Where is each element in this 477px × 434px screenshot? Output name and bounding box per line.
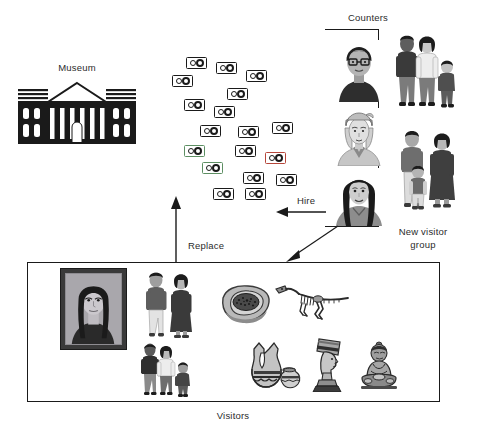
- tally-counter-icon: [246, 70, 267, 82]
- tally-counter-icon: [238, 126, 259, 138]
- tally-counter-icon: [184, 145, 205, 157]
- replace-arrow: [168, 196, 184, 264]
- pottery-vessels: [243, 341, 305, 393]
- visitor-group-pair: [137, 270, 197, 342]
- tally-counter-icon: [216, 62, 237, 74]
- tally-counter-icon: [272, 122, 293, 134]
- tally-counter-icon: [265, 152, 286, 164]
- tally-counter-icon: [243, 172, 264, 184]
- replace-label: Replace: [188, 240, 224, 251]
- buddha-statue: [353, 340, 405, 392]
- tally-counter-icon: [172, 75, 193, 87]
- visitors-label: Visitors: [196, 410, 270, 421]
- tally-counter-icon: [245, 188, 266, 200]
- new-visitor-group-label-line1: New visitor: [381, 226, 465, 237]
- new-visitor-group-label-line2: group: [381, 239, 465, 250]
- new-visitor-group-family-2: [390, 128, 464, 216]
- tally-counter-icon: [202, 162, 223, 174]
- nefertiti-bust: [307, 336, 351, 392]
- diagram-canvas: Museum: [0, 0, 477, 434]
- dinosaur-skeleton: [272, 278, 352, 328]
- painting-canvas: [65, 273, 122, 345]
- tally-counter-icon: [235, 145, 256, 157]
- tally-counter-icon: [200, 125, 221, 137]
- mona-lisa-painting: [60, 268, 127, 350]
- museum-building-icon: [18, 80, 136, 145]
- museum-label: Museum: [37, 62, 117, 73]
- tally-counter-icon: [186, 57, 207, 69]
- counter-portrait-woman-dark-hair: [334, 168, 384, 226]
- hire-label: Hire: [297, 195, 315, 206]
- tally-counter-icon: [213, 188, 234, 200]
- tally-counter-icon: [214, 106, 235, 118]
- new-visitor-group-family-1: [390, 33, 464, 115]
- fossil-specimen: [218, 282, 274, 326]
- new-visitor-arrow: [283, 224, 341, 264]
- counters-label: Counters: [332, 12, 404, 23]
- visitor-group-family: [136, 342, 200, 400]
- tally-counter-icon: [227, 88, 248, 100]
- tally-counter-icon: [184, 99, 205, 111]
- counter-portrait-man-glasses: [335, 40, 383, 102]
- counter-portrait-woman-headscarf: [335, 108, 383, 166]
- tally-counter-icon: [276, 174, 297, 186]
